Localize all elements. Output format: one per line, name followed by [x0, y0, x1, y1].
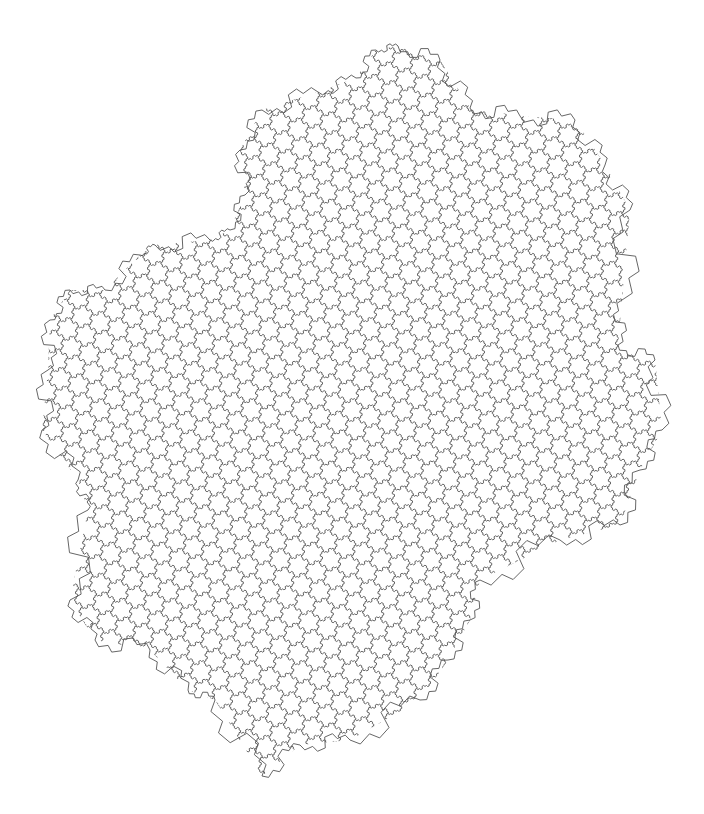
tile-edges [35, 43, 669, 777]
tiling-outline [36, 44, 671, 778]
fractal-tiling-figure: Gosper island (flowsnake) fractal tiling… [0, 0, 704, 814]
tile-group [35, 43, 669, 777]
gosper-tiling-svg [0, 0, 704, 814]
